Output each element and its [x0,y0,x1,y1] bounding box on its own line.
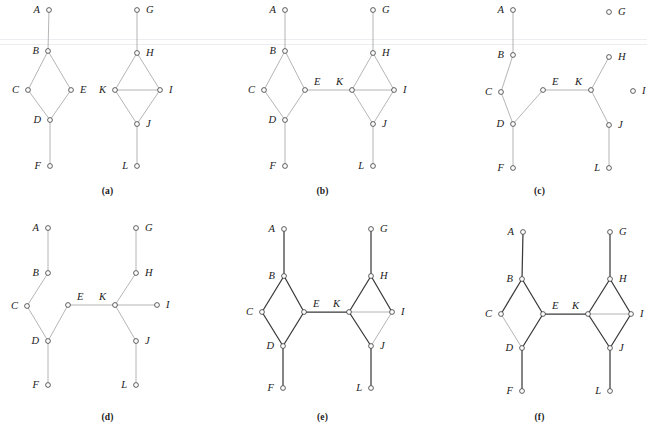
node-J [371,122,376,127]
node-A [46,226,51,231]
node-H [134,271,139,276]
node-K [347,310,352,315]
node-label-E: E [551,76,559,87]
node-label-K: K [571,300,580,311]
node-label-B: B [507,273,514,284]
edge-K-J [115,90,137,124]
edge-group [27,228,157,385]
node-L [134,383,139,388]
edge-group [28,10,160,166]
node-I [629,312,634,317]
edge-K-J [349,312,371,346]
node-label-I: I [639,308,644,319]
node-C [26,88,31,93]
node-A [47,8,52,13]
node-H [371,51,376,56]
edge-B-C [501,279,522,314]
node-label-A: A [32,222,40,233]
node-label-B: B [498,49,505,60]
node-label-C: C [12,84,20,95]
node-label-H: H [379,270,389,281]
edge-B-C [501,55,513,92]
node-label-L: L [120,379,127,390]
edge-B-E [522,279,543,314]
node-A [521,230,526,235]
panel-caption-b: (b) [215,186,430,196]
edge-E-D [285,90,305,120]
node-label-F: F [267,382,275,393]
node-G [134,226,139,231]
node-F [283,164,288,169]
edge-D-E [513,90,543,124]
edge-H-K [588,279,610,314]
edge-H-I [610,279,631,314]
node-label-J: J [382,118,388,129]
node-J [134,339,139,344]
node-group: ABCEDFGHKIJL [485,4,646,173]
node-C [499,90,504,95]
edge-H-I [371,276,392,312]
node-label-G: G [619,226,627,237]
graph-panel-a: ABCEDFGHKIJL(a) [0,0,215,216]
node-label-J: J [145,335,151,346]
node-E [69,88,74,93]
node-L [371,164,376,169]
node-label-F: F [497,162,505,173]
edge-K-J [588,314,610,348]
figure-root: ABCEDFGHKIJL(a)ABCEDFGHKIJL(b)ABCEDFGHKI… [0,0,647,432]
node-G [135,8,140,13]
node-L [135,164,140,169]
node-label-C: C [248,84,256,95]
node-label-I: I [641,85,646,96]
graph-svg-b: ABCEDFGHKIJL [215,0,430,216]
node-G [608,230,613,235]
node-label-C: C [246,306,254,317]
node-D [46,339,51,344]
graph-svg-e: ABCEDFGHKIJL [215,216,430,432]
node-label-I: I [165,299,170,310]
node-F [48,164,53,169]
node-label-L: L [355,382,362,393]
node-label-G: G [618,6,626,17]
node-label-L: L [121,160,128,171]
node-B [282,274,287,279]
edge-B-C [262,276,284,312]
node-G [369,227,374,232]
graph-panel-e: ABCEDFGHKIJL(e) [215,216,430,432]
node-I [158,88,163,93]
node-label-D: D [30,335,39,346]
node-label-F: F [269,160,277,171]
node-E [541,88,546,93]
node-label-A: A [268,223,276,234]
node-label-A: A [507,226,515,237]
node-C [262,88,267,93]
node-L [369,386,374,391]
node-label-B: B [269,270,276,281]
node-label-D: D [495,118,504,129]
node-F [281,386,286,391]
edge-E-D [283,312,304,346]
node-label-K: K [332,298,341,309]
node-B [283,49,288,54]
node-label-G: G [145,222,153,233]
node-E [303,88,308,93]
node-label-I: I [402,84,407,95]
edge-K-H [591,57,609,90]
edge-group [262,229,392,388]
node-label-E: E [79,84,87,95]
node-label-H: H [381,47,391,58]
node-label-C: C [485,86,493,97]
node-label-L: L [594,385,601,396]
node-E [66,303,71,308]
edge-E-D [50,90,71,120]
graph-svg-d: ABCEDFGHKIJL [0,216,215,432]
node-B [520,277,525,282]
node-group: ABCEDFGHKIJL [12,4,173,171]
node-label-D: D [504,342,513,353]
edge-E-D [522,314,543,348]
edge-B-E [285,51,305,90]
node-label-C: C [485,308,493,319]
node-label-J: J [618,119,624,130]
node-D [48,118,53,123]
node-label-I: I [400,306,405,317]
